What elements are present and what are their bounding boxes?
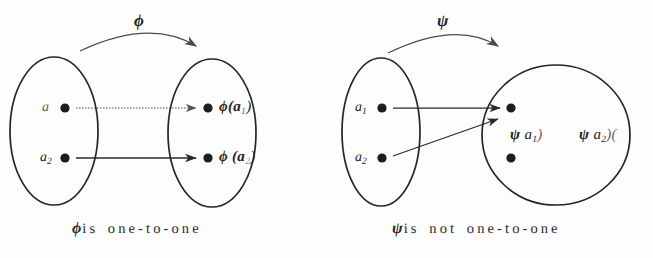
label-a2-domain-right: a2	[355, 151, 367, 168]
domain-ellipse-right	[342, 58, 420, 206]
label-a2-domain: a2	[40, 151, 52, 168]
codomain-dot-phi-a2	[203, 153, 212, 162]
psi-map-symbol: ψ	[437, 12, 449, 29]
figure-root: ϕ a a2 ϕ(a1) ϕ (a2) ϕis one-to-one	[0, 0, 653, 258]
domain-dot-a1	[60, 103, 69, 112]
phi-curved-arrow	[80, 33, 196, 51]
codomain-ellipse-left	[168, 59, 256, 207]
codomain-dot-unmapped	[506, 153, 515, 162]
label-a1-domain-right: a1	[355, 101, 367, 118]
label-psi-a2: ψ a2)(	[579, 128, 617, 146]
caption-noninjective: ψis not one-to-one	[392, 221, 561, 237]
caption-injective: ϕis one-to-one	[72, 221, 202, 237]
injective-diagram-svg	[0, 0, 326, 258]
domain-dot-a1-right	[377, 103, 386, 112]
label-a1-domain: a	[42, 101, 49, 115]
panel-noninjective-mapping: ψ a1 a2 ψ a1) ψ a2)( ψis not one-to-one	[326, 0, 653, 258]
panel-injective-mapping: ϕ a a2 ϕ(a1) ϕ (a2) ϕis one-to-one	[0, 0, 326, 258]
codomain-dot-shared-image	[506, 103, 515, 112]
domain-dot-a2	[60, 153, 69, 162]
domain-dot-a2-right	[377, 153, 386, 162]
domain-ellipse-left	[10, 57, 98, 205]
label-phi-a2: ϕ (a2)	[219, 150, 255, 168]
codomain-dot-phi-a1	[203, 103, 212, 112]
label-phi-a1: ϕ(a1)	[219, 100, 251, 118]
label-psi-a1: ψ a1)	[510, 128, 543, 146]
phi-map-symbol: ϕ	[134, 12, 144, 29]
psi-curved-arrow	[388, 35, 498, 53]
